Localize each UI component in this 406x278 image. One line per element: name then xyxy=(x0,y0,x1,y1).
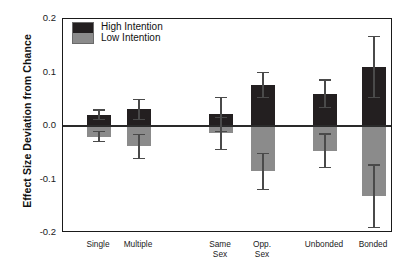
error-bar-low-intention-cap xyxy=(215,149,227,150)
error-bar-low-intention-upper xyxy=(98,132,99,137)
y-tick-label: 0.0 xyxy=(16,119,56,130)
error-bar-high-intention-cap xyxy=(133,99,145,100)
error-bar-low-intention-cap xyxy=(93,141,105,142)
error-bar-low-intention-upper-cap xyxy=(93,131,105,132)
legend-swatch-high-intention xyxy=(73,23,93,33)
error-bar-high-intention-lower-cap xyxy=(257,97,269,98)
error-bar-high-intention-cap xyxy=(319,79,331,80)
x-tick-label: Multiple xyxy=(108,240,168,250)
error-bar-low-intention-upper xyxy=(138,135,139,147)
error-bar-low-intention xyxy=(324,151,325,168)
error-bar-low-intention-upper-cap xyxy=(319,133,331,134)
error-bar-low-intention-upper xyxy=(324,134,325,151)
error-bar-low-intention-cap xyxy=(368,227,380,228)
legend-swatch-low-intention xyxy=(73,33,93,43)
error-bar-high-intention-lower xyxy=(373,67,374,97)
error-bar-low-intention xyxy=(220,133,221,149)
error-bar-low-intention-upper xyxy=(373,165,374,196)
error-bar-low-intention xyxy=(373,196,374,227)
y-tick-label: 0.1 xyxy=(16,66,56,77)
error-bar-high-intention-lower-cap xyxy=(93,119,105,120)
zero-reference-line xyxy=(63,125,391,126)
error-bar-low-intention-upper-cap xyxy=(215,117,227,118)
legend-swatches xyxy=(72,22,94,44)
chart-figure: Effect Size Deviation from Chance 0.20.1… xyxy=(0,0,406,278)
error-bar-low-intention-cap xyxy=(257,189,269,190)
error-bar-high-intention-lower-cap xyxy=(133,119,145,120)
error-bar-low-intention-upper-cap xyxy=(257,153,269,154)
error-bar-high-intention xyxy=(324,80,325,94)
x-tick-label: Bonded xyxy=(343,240,403,250)
error-bar-low-intention-upper xyxy=(262,154,263,172)
error-bar-high-intention-lower-cap xyxy=(319,107,331,108)
legend-labels: High IntentionLow Intention xyxy=(101,22,163,43)
legend-label-low-intention: Low Intention xyxy=(101,33,163,44)
error-bar-low-intention xyxy=(138,146,139,158)
error-bar-high-intention xyxy=(373,36,374,66)
y-tick-label: -0.2 xyxy=(16,226,56,237)
legend-label-high-intention: High Intention xyxy=(101,22,163,33)
error-bar-low-intention-cap xyxy=(319,167,331,168)
error-bar-high-intention-lower xyxy=(324,94,325,108)
error-bar-low-intention-upper xyxy=(220,117,221,133)
error-bar-low-intention xyxy=(262,171,263,189)
error-bar-low-intention-upper-cap xyxy=(368,164,380,165)
error-bar-high-intention xyxy=(262,73,263,85)
error-bar-high-intention-cap xyxy=(368,36,380,37)
error-bar-high-intention-cap xyxy=(215,97,227,98)
error-bar-low-intention-upper-cap xyxy=(133,134,145,135)
error-bar-low-intention-cap xyxy=(133,158,145,159)
error-bar-high-intention xyxy=(138,99,139,109)
x-tick-label: Opp. Sex xyxy=(232,240,292,259)
error-bar-high-intention-cap xyxy=(93,109,105,110)
plot-area xyxy=(62,18,392,232)
y-tick-label: -0.1 xyxy=(16,173,56,184)
error-bar-high-intention xyxy=(220,97,221,114)
y-tick-label: 0.2 xyxy=(16,12,56,23)
error-bar-high-intention-lower xyxy=(262,85,263,97)
error-bar-high-intention-cap xyxy=(257,72,269,73)
error-bar-high-intention-lower-cap xyxy=(368,97,380,98)
chart-legend: High IntentionLow Intention xyxy=(72,22,163,44)
